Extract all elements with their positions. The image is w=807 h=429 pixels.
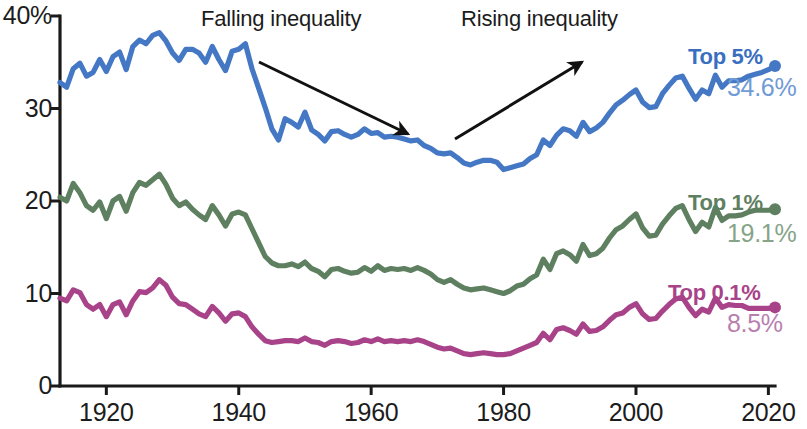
y-tick-label-10: 10 [0,281,52,306]
series-endpoint-top-5 [769,60,781,72]
series-label-top-01: Top 0.1% [668,282,761,304]
series-line-top-1 [60,174,775,293]
series-value-top-1: 19.1% [727,221,796,246]
x-tick-label-1920: 1920 [66,400,146,425]
chart-canvas [0,0,807,429]
chart-figure: 40% 30 20 10 0 1920 1940 1960 1980 2000 … [0,0,807,429]
x-tick-label-1980: 1980 [464,400,544,425]
falling-inequality-label: Falling inequality [201,8,361,30]
x-tick-label-1940: 1940 [199,400,279,425]
x-tick-label-2020: 2020 [728,400,807,425]
series-endpoint-top-1 [769,203,781,215]
y-tick-label-30: 30 [0,96,52,121]
x-tick-label-2000: 2000 [596,400,676,425]
y-tick-label-0: 0 [0,373,52,398]
series-line-top-5 [60,33,775,170]
series-value-top-5: 34.6% [727,75,796,100]
x-tick-label-1960: 1960 [331,400,411,425]
y-tick-label-20: 20 [0,188,52,213]
y-tick-label-40: 40% [0,3,52,28]
series-label-top-1: Top 1% [688,192,763,214]
series-label-top-5: Top 5% [688,46,763,68]
rising-inequality-label: Rising inequality [461,8,618,30]
series-value-top-01: 8.5% [727,311,783,336]
series-layer [60,33,781,355]
